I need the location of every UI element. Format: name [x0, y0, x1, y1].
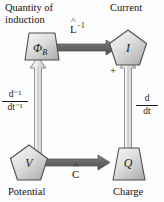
diagram-figure: Quantity of induction Current Potential … [0, 0, 164, 202]
operator-exponent: −1 [77, 21, 85, 30]
edge-label-integral-operator: d⁻¹ dt⁻¹ [2, 90, 28, 113]
fraction-numerator: d [136, 94, 158, 104]
hatted-operator-C: ˄C [72, 168, 79, 180]
hat-accent-icon: ˄ [72, 161, 79, 170]
hatted-operator-L: ˄L [70, 23, 77, 35]
edge-label-derivative-operator: d dt [136, 94, 158, 117]
caption-potential: Potential [8, 186, 45, 198]
node-symbol-current: I [118, 41, 138, 56]
fraction-numerator: d⁻¹ [2, 90, 28, 100]
edge-top-right-arrow [56, 40, 118, 55]
edge-label-inductance-inverse: ˄L−1 [70, 22, 85, 35]
fraction-denominator: dt [136, 107, 158, 117]
plus-sign-annotation: + [110, 64, 116, 76]
node-symbol-potential: V [18, 156, 40, 171]
caption-line-1: Quantity of [5, 2, 53, 13]
caption-current: Current [110, 2, 142, 14]
caption-quantity-of-induction: Quantity of induction [5, 2, 67, 27]
node-symbol-flux: ΦB [26, 41, 54, 57]
fraction-denominator: dt⁻¹ [2, 103, 28, 113]
caption-line-2: induction [5, 14, 45, 25]
flux-symbol-subscript: B [42, 48, 47, 57]
caption-charge: Charge [113, 186, 143, 198]
edge-label-capacitance: ˄C [72, 168, 79, 180]
hat-accent-icon: ˄ [70, 16, 77, 25]
flux-symbol-base: Φ [33, 41, 42, 55]
node-symbol-charge: Q [116, 156, 140, 171]
